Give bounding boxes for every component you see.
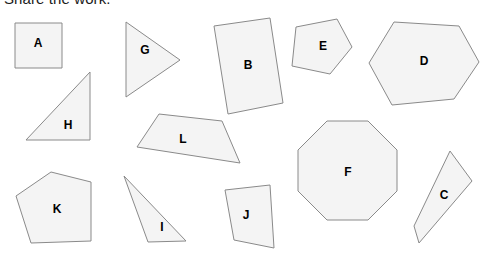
shape-label-g: G — [140, 43, 149, 57]
shape-b: B — [214, 18, 283, 114]
shape-outline-j — [225, 185, 274, 248]
shape-label-i: I — [160, 220, 163, 234]
worksheet-canvas: Share the work. AGBEDHLFKIJC — [0, 0, 485, 255]
shape-e: E — [292, 19, 352, 74]
shape-label-d: D — [420, 54, 429, 68]
shape-outline-i — [124, 176, 186, 242]
shape-label-l: L — [179, 132, 186, 146]
shape-label-a: A — [34, 36, 43, 50]
shape-label-j: J — [243, 208, 250, 222]
shape-a: A — [15, 23, 62, 68]
shape-k: K — [16, 172, 91, 243]
shape-l: L — [137, 114, 240, 163]
shape-f: F — [298, 121, 397, 220]
shape-i: I — [124, 176, 186, 242]
shape-outline-l — [137, 114, 240, 163]
shape-h: H — [26, 72, 90, 140]
shape-label-e: E — [319, 39, 327, 53]
shape-c: C — [414, 151, 472, 243]
shape-label-c: C — [440, 188, 449, 202]
shape-d: D — [369, 22, 479, 105]
shape-outline-g — [126, 22, 180, 97]
shape-outline-h — [26, 72, 90, 140]
shape-label-b: B — [244, 58, 253, 72]
shape-label-h: H — [64, 118, 73, 132]
shape-label-f: F — [344, 165, 351, 179]
shape-g: G — [126, 22, 180, 97]
shape-j: J — [225, 185, 274, 248]
shape-diagram: AGBEDHLFKIJC — [0, 0, 485, 255]
shape-label-k: K — [53, 202, 62, 216]
